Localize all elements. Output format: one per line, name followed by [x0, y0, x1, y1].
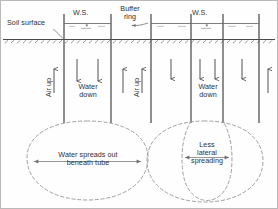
soil-surface-leader — [54, 29, 64, 39]
figure-canvas: Soil surface Buffer ring W.S. W.S. Air u… — [0, 0, 278, 209]
right-tube-walls — [151, 14, 259, 123]
left-bulb-label: Water spreads out beneath tube — [37, 151, 139, 167]
soil-hatching — [5, 40, 272, 43]
air-up-label-right: Air up — [133, 78, 141, 97]
water-surface-label-right: W.S. — [192, 9, 207, 17]
buffer-ring-leader-head — [132, 24, 136, 27]
right-bulb-label: Less lateral spreading — [185, 141, 229, 166]
right-water-surface — [151, 24, 259, 29]
left-tube-walls — [64, 14, 111, 123]
left-water-surface — [64, 24, 111, 29]
soil-surface-line — [3, 40, 275, 44]
water-surface-label-left: W.S. — [73, 9, 88, 17]
buffer-ring-label: Buffer ring — [113, 5, 147, 21]
water-down-label-left: Water down — [67, 83, 109, 99]
water-down-label-right: Water down — [187, 83, 229, 99]
air-up-label-left: Air up — [45, 78, 53, 97]
soil-surface-label: Soil surface — [7, 19, 45, 27]
diagram-graphics — [1, 1, 277, 208]
